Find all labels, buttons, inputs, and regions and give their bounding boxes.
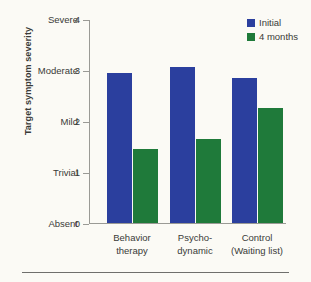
- legend-label-4months: 4 months: [259, 31, 298, 42]
- bottom-rule: [22, 272, 289, 273]
- bar-initial: [170, 67, 195, 223]
- y-tick-mark: [83, 224, 89, 225]
- y-tick-number: 4: [66, 14, 80, 25]
- legend-item: Initial: [247, 17, 298, 28]
- x-axis-label: Control(Waiting list): [214, 231, 300, 257]
- bar-group: [170, 20, 221, 223]
- bar-4months: [133, 149, 158, 223]
- bar-chart-figure: Target symptom severity Absent0Trivial1M…: [0, 0, 311, 282]
- y-tick-number: 2: [66, 116, 80, 127]
- bar-group: [107, 20, 158, 223]
- chart-legend: Initial 4 months: [247, 17, 298, 45]
- bar-4months: [258, 108, 283, 223]
- x-axis-label-line: Control: [214, 231, 300, 244]
- legend-swatch-4months-icon: [247, 33, 255, 41]
- legend-item: 4 months: [247, 31, 298, 42]
- bar-group: [232, 20, 283, 223]
- y-axis-title: Target symptom severity: [23, 1, 33, 161]
- x-axis-label-line: (Waiting list): [214, 244, 300, 257]
- y-tick-number: 0: [66, 218, 80, 229]
- y-tick-number: 3: [66, 65, 80, 76]
- bar-4months: [196, 139, 221, 223]
- plot-area: [89, 20, 286, 224]
- bar-initial: [107, 73, 132, 223]
- y-tick-number: 1: [66, 167, 80, 178]
- legend-swatch-initial-icon: [247, 19, 255, 27]
- bar-initial: [232, 78, 257, 223]
- legend-label-initial: Initial: [259, 17, 281, 28]
